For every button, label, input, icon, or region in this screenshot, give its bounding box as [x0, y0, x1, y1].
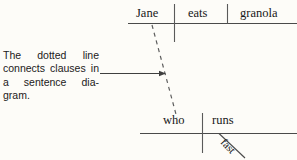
- caption-word: connects: [3, 62, 45, 75]
- caption-line-4: gram.: [3, 89, 99, 102]
- main-clause-object-label: granola: [240, 6, 277, 21]
- caption-word: a: [3, 76, 9, 89]
- caption-line-3: a sentence dia-: [3, 76, 99, 89]
- dotted-connector-line: [152, 25, 177, 118]
- caption-word: gram.: [3, 89, 30, 101]
- main-clause-subject-label: Jane: [136, 6, 158, 21]
- caption-word: dia-: [81, 76, 99, 89]
- caption-line-2: connects clauses in: [3, 62, 99, 75]
- caption-word: in: [91, 62, 99, 75]
- main-clause-verb-label: eats: [188, 6, 207, 21]
- caption-word: line: [83, 49, 99, 62]
- caption-text: The dotted line connects clauses in a se…: [3, 49, 99, 103]
- caption-word: The: [3, 49, 21, 62]
- sentence-diagram-figure: Jane eats granola who runs fast The dott…: [0, 0, 297, 160]
- caption-word: dotted: [37, 49, 66, 62]
- caption-word: clauses: [50, 62, 86, 75]
- caption-line-1: The dotted line: [3, 49, 99, 62]
- relative-clause-subject-label: who: [163, 113, 185, 128]
- relative-clause-verb-label: runs: [212, 113, 234, 128]
- caption-word: sentence: [24, 76, 67, 89]
